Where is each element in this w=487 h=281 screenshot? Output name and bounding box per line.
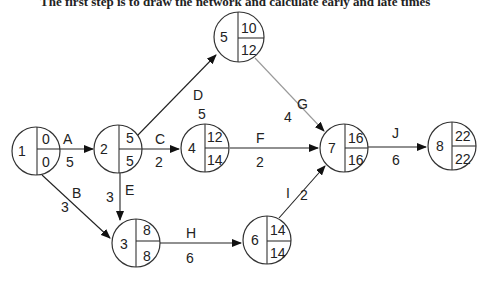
edge-j-duration: 6 xyxy=(392,152,400,168)
edge-f-duration: 2 xyxy=(256,154,264,170)
node-8: 8 22 22 xyxy=(428,122,476,170)
node-1: 1 0 0 xyxy=(12,127,60,175)
node-4-id: 4 xyxy=(188,140,196,156)
edge-a-label: A xyxy=(63,131,73,147)
node-6: 6 14 14 xyxy=(243,216,291,264)
node-7: 7 16 16 xyxy=(320,124,368,172)
node-4-late: 14 xyxy=(207,152,223,168)
network-diagram: A 5 B 3 C 2 D 5 E 3 F 2 G 4 H 6 xyxy=(0,0,487,281)
node-2-early: 5 xyxy=(126,130,134,146)
node-3-early: 8 xyxy=(143,222,151,238)
edge-j: J 6 xyxy=(368,125,426,168)
node-8-late: 22 xyxy=(455,151,471,167)
node-4: 4 12 14 xyxy=(181,124,229,172)
edge-g-label: G xyxy=(297,96,308,112)
edge-b-label: B xyxy=(72,185,81,201)
edge-i-label: I xyxy=(286,185,290,201)
edge-f: F 2 xyxy=(230,130,318,170)
node-3-id: 3 xyxy=(120,236,128,252)
edge-c-duration: 2 xyxy=(155,154,163,170)
node-6-early: 14 xyxy=(270,222,286,238)
node-1-early: 0 xyxy=(42,131,50,147)
edge-d-label: D xyxy=(193,87,203,103)
edge-c-label: C xyxy=(155,131,165,147)
node-5-id: 5 xyxy=(220,29,228,45)
node-5: 5 10 12 xyxy=(214,12,264,62)
edge-a-duration: 5 xyxy=(66,154,74,170)
edge-b: B 3 xyxy=(42,175,110,238)
node-7-id: 7 xyxy=(328,140,336,156)
node-2-late: 5 xyxy=(126,153,134,169)
node-4-early: 12 xyxy=(207,129,223,145)
edge-g-duration: 4 xyxy=(284,109,292,125)
edge-b-duration: 3 xyxy=(61,199,69,215)
edge-g: G 4 xyxy=(255,58,324,131)
node-2: 2 5 5 xyxy=(94,125,142,173)
edge-f-label: F xyxy=(256,130,265,146)
node-8-id: 8 xyxy=(436,138,444,154)
node-7-early: 16 xyxy=(348,130,364,146)
node-2-id: 2 xyxy=(100,141,108,157)
edge-i: I 2 xyxy=(279,166,325,218)
edge-h-duration: 6 xyxy=(186,250,194,266)
edge-d-duration: 5 xyxy=(198,106,206,122)
edge-h-label: H xyxy=(186,225,196,241)
edge-j-label: J xyxy=(392,125,399,141)
node-1-late: 0 xyxy=(42,154,50,170)
edge-i-duration: 2 xyxy=(300,187,308,203)
node-6-late: 14 xyxy=(270,245,286,261)
node-3: 3 8 8 xyxy=(112,219,160,267)
node-7-late: 16 xyxy=(348,152,364,168)
edge-c: C 2 xyxy=(142,131,179,170)
node-5-late: 12 xyxy=(241,42,257,58)
edge-e-label: E xyxy=(125,182,134,198)
node-6-id: 6 xyxy=(251,232,259,248)
edge-e-duration: 3 xyxy=(106,189,114,205)
node-5-early: 10 xyxy=(241,20,257,36)
edge-a: A 5 xyxy=(60,131,93,170)
edge-h: H 6 xyxy=(160,225,241,266)
node-8-early: 22 xyxy=(455,128,471,144)
node-1-id: 1 xyxy=(18,143,26,159)
edge-e: E 3 xyxy=(106,173,134,220)
node-3-late: 8 xyxy=(143,248,151,264)
